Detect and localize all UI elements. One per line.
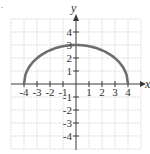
x-tick-label: -2 xyxy=(45,86,54,98)
y-tick-label: -1 xyxy=(63,91,72,103)
y-tick-label: 1 xyxy=(67,65,73,77)
x-tick-labels: -4-3-2-11234 xyxy=(19,86,131,98)
y-axis-label: y xyxy=(70,1,77,15)
axes xyxy=(11,14,146,150)
x-tick-label: -4 xyxy=(19,86,29,98)
y-tick-label: -3 xyxy=(63,117,73,129)
corner-mark: . xyxy=(1,0,3,10)
y-tick-label: -2 xyxy=(63,104,72,116)
y-tick-label: -4 xyxy=(63,130,73,142)
y-tick-label: 3 xyxy=(67,39,73,51)
ellipse-graph: -4-3-2-11234 4321-1-2-3-4 x y . xyxy=(0,0,150,154)
x-tick-label: 1 xyxy=(86,86,92,98)
y-tick-label: 4 xyxy=(67,26,73,38)
x-tick-label: 4 xyxy=(125,86,131,98)
y-tick-label: 2 xyxy=(67,52,73,64)
x-axis-label: x xyxy=(144,77,150,91)
y-axis-arrow-icon xyxy=(73,14,79,21)
x-tick-label: 3 xyxy=(112,86,118,98)
x-tick-label: 2 xyxy=(99,86,105,98)
x-tick-label: -3 xyxy=(32,86,42,98)
